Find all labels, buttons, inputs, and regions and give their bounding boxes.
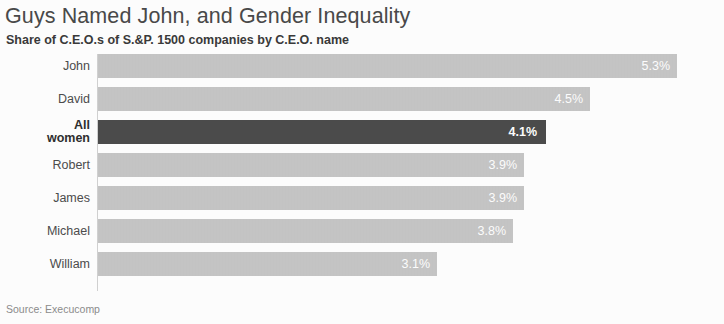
- plot-area: John5.3%David4.5%All women4.1%Robert3.9%…: [0, 54, 724, 294]
- bar: 3.9%: [98, 186, 524, 210]
- category-label: John: [0, 60, 90, 73]
- bar: 3.9%: [98, 153, 524, 177]
- bar-chart-figure: Guys Named John, and Gender Inequality S…: [0, 0, 724, 324]
- bar-row: David4.5%: [0, 87, 724, 120]
- bar-row: Michael3.8%: [0, 219, 724, 252]
- chart-title: Guys Named John, and Gender Inequality: [5, 4, 410, 29]
- bar: 5.3%: [98, 54, 677, 78]
- bar: 3.8%: [98, 219, 513, 243]
- bar-highlighted: 4.1%: [98, 120, 546, 144]
- bar-value-label: 5.3%: [642, 54, 671, 78]
- category-label: All women: [0, 119, 90, 145]
- bar-value-label: 3.8%: [478, 219, 507, 243]
- bar-value-label: 4.5%: [555, 87, 584, 111]
- bar-value-label: 3.9%: [489, 153, 518, 177]
- category-label: James: [0, 192, 90, 205]
- chart-subtitle: Share of C.E.O.s of S.&P. 1500 companies…: [6, 33, 349, 47]
- category-label: Michael: [0, 225, 90, 238]
- bar-row: Robert3.9%: [0, 153, 724, 186]
- bar-row: William3.1%: [0, 252, 724, 285]
- bar-value-label: 4.1%: [509, 120, 538, 144]
- bar-value-label: 3.1%: [402, 252, 431, 276]
- category-label: Robert: [0, 159, 90, 172]
- bar-row: All women4.1%: [0, 120, 724, 153]
- bar-row: James3.9%: [0, 186, 724, 219]
- category-label: William: [0, 258, 90, 271]
- bar-row: John5.3%: [0, 54, 724, 87]
- bar: 3.1%: [98, 252, 437, 276]
- source-note: Source: Execucomp: [6, 303, 100, 315]
- bar: 4.5%: [98, 87, 590, 111]
- category-label: David: [0, 93, 90, 106]
- bar-value-label: 3.9%: [489, 186, 518, 210]
